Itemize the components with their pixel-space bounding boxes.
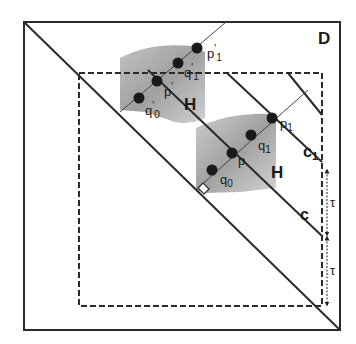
label-h-upper: H (184, 95, 196, 114)
label-line-c: c (300, 206, 309, 223)
point-p (227, 148, 238, 159)
point-p1 (267, 113, 278, 124)
line-c1 (288, 73, 322, 115)
label-tau-upper: τ (330, 195, 336, 210)
label-h-lower: H (271, 163, 283, 182)
point-q0 (207, 165, 218, 176)
label-p1: p1 (280, 116, 293, 133)
label-p-prime-1: p'1 (207, 43, 222, 63)
label-tau-lower: τ (330, 263, 336, 278)
point-p-prime (152, 76, 163, 87)
label-line-c1: c1 (303, 143, 318, 162)
point-q-prime-1 (173, 58, 184, 69)
point-q1 (246, 130, 257, 141)
diagram-canvas: q'0 p' q'1 p'1 H q0 p q1 p1 H c c1 D τ τ (0, 0, 356, 344)
point-q-prime-0 (134, 93, 145, 104)
label-p: p (238, 153, 245, 168)
point-p-prime-1 (192, 43, 203, 54)
label-domain: D (318, 29, 330, 48)
